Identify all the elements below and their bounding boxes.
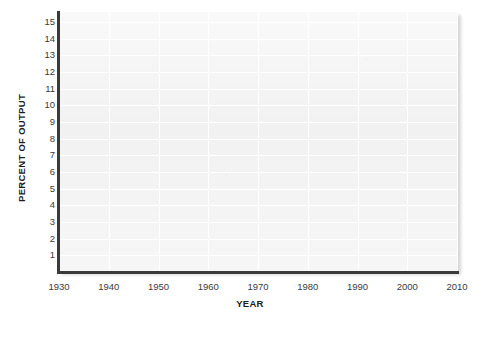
x-axis-tick-label: 1990 <box>336 281 380 292</box>
x-axis-title: YEAR <box>198 298 302 309</box>
x-axis-tick-label: 2000 <box>385 281 429 292</box>
x-axis-tick-label: 1950 <box>137 281 181 292</box>
y-axis-tick-label: 5 <box>33 184 55 194</box>
y-axis-tick-label: 8 <box>33 134 55 144</box>
y-axis-tick-label: 1 <box>33 250 55 260</box>
gridline-vertical <box>159 12 160 272</box>
gridline-vertical <box>457 12 458 272</box>
y-axis-tick-label: 3 <box>33 217 55 227</box>
gridline-vertical <box>308 12 309 272</box>
chart-figure: 151413121110987654321 193019401950196019… <box>0 0 494 338</box>
x-axis-tick-label: 1930 <box>37 281 81 292</box>
gridline-vertical <box>407 12 408 272</box>
y-axis-tick-label: 13 <box>33 50 55 60</box>
gridline-vertical <box>358 12 359 272</box>
plot-area <box>59 12 458 272</box>
y-axis-tick-label: 10 <box>33 100 55 110</box>
x-axis-tick-label: 1940 <box>87 281 131 292</box>
y-axis-tick-label: 2 <box>33 234 55 244</box>
y-axis-tick-label: 15 <box>33 17 55 27</box>
gridline-vertical <box>258 12 259 272</box>
x-axis-tick-label: 1960 <box>186 281 230 292</box>
x-axis-line <box>57 271 459 274</box>
y-axis-tick-label: 6 <box>33 167 55 177</box>
y-axis-line <box>57 11 60 274</box>
y-axis-tick-label: 11 <box>33 84 55 94</box>
y-axis-tick-label: 12 <box>33 67 55 77</box>
gridline-vertical <box>109 12 110 272</box>
y-axis-title: PERCENT OF OUTPUT <box>16 88 30 208</box>
x-axis-tick-label: 1980 <box>286 281 330 292</box>
y-axis-tick-label: 7 <box>33 150 55 160</box>
gridline-vertical <box>208 12 209 272</box>
x-axis-tick-label: 1970 <box>236 281 280 292</box>
y-axis-tick-label: 14 <box>33 34 55 44</box>
x-axis-tick-label: 2010 <box>435 281 479 292</box>
y-axis-tick-label: 9 <box>33 117 55 127</box>
y-axis-tick-label: 4 <box>33 200 55 210</box>
